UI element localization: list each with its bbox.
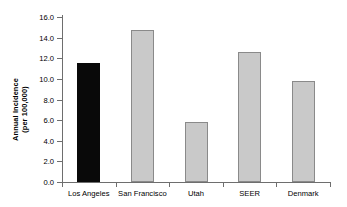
y-axis-tick-label: 14.0: [2, 33, 54, 42]
plot-area: [62, 17, 330, 182]
bar-denmark: [292, 81, 315, 182]
x-axis-tick: [276, 183, 277, 187]
y-axis-tick-label: 0.0: [2, 178, 54, 187]
y-axis-tick: [57, 38, 62, 39]
y-axis-tick: [57, 141, 62, 142]
y-axis-tick: [57, 161, 62, 162]
y-axis-tick: [57, 17, 62, 18]
bar-los-angeles: [77, 63, 100, 182]
y-axis-tick-label: 4.0: [2, 136, 54, 145]
bar-seer: [238, 52, 261, 182]
x-axis-label-san-francisco: San Francisco: [118, 189, 167, 198]
x-axis-tick: [223, 183, 224, 187]
y-axis-tick: [57, 79, 62, 80]
y-axis-tick-label: 16.0: [2, 13, 54, 22]
bar-san-francisco: [131, 30, 154, 182]
bar-utah: [185, 122, 208, 182]
y-axis-tick: [57, 100, 62, 101]
y-axis-tick-label: 10.0: [2, 74, 54, 83]
x-axis-label-los-angeles: Los Angeles: [68, 189, 109, 198]
y-axis-tick-label: 2.0: [2, 157, 54, 166]
x-axis-label-seer: SEER: [239, 189, 260, 198]
y-axis-tick: [57, 58, 62, 59]
x-axis-label-utah: Utah: [188, 189, 204, 198]
y-axis-tick-label: 6.0: [2, 116, 54, 125]
bar-chart: Annual Incidence (per 100,000) 0.02.04.0…: [0, 0, 347, 207]
x-axis-tick: [330, 183, 331, 187]
y-axis-tick-label: 12.0: [2, 54, 54, 63]
y-axis-labels: 0.02.04.06.08.010.012.014.016.0: [0, 0, 54, 207]
x-axis-tick: [169, 183, 170, 187]
x-axis-line: [62, 182, 331, 183]
x-axis-tick: [62, 183, 63, 187]
x-axis-label-denmark: Denmark: [288, 189, 319, 198]
x-axis-tick: [116, 183, 117, 187]
y-axis-tick-label: 8.0: [2, 95, 54, 104]
y-axis-tick: [57, 120, 62, 121]
